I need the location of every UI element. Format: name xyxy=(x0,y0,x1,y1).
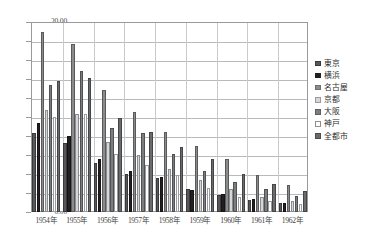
bar[interactable] xyxy=(221,194,224,212)
bar[interactable] xyxy=(145,165,148,213)
x-axis-tick-label: 1955年 xyxy=(62,214,93,225)
bar[interactable] xyxy=(279,203,282,212)
bar[interactable] xyxy=(41,32,44,212)
legend-item[interactable]: 名古屋 xyxy=(315,83,348,92)
bar[interactable] xyxy=(129,171,132,212)
bar[interactable] xyxy=(211,159,214,212)
bar[interactable] xyxy=(252,199,255,212)
bar[interactable] xyxy=(287,185,290,212)
bar[interactable] xyxy=(225,159,228,212)
legend-item[interactable]: 神戸 xyxy=(315,119,348,128)
bar-group xyxy=(62,22,93,212)
legend-item-label: 大阪 xyxy=(324,107,340,116)
bar-group xyxy=(185,22,216,212)
bars-layer xyxy=(31,22,308,212)
bar[interactable] xyxy=(207,188,210,212)
legend-item[interactable]: 横浜 xyxy=(315,71,348,80)
bar[interactable] xyxy=(71,44,74,212)
bar[interactable] xyxy=(57,81,60,212)
bar[interactable] xyxy=(303,191,306,212)
x-axis-tick-label: 1958年 xyxy=(154,214,185,225)
bar[interactable] xyxy=(80,71,83,212)
legend-swatch-icon xyxy=(315,109,321,115)
bar[interactable] xyxy=(203,171,206,212)
bar[interactable] xyxy=(168,169,171,212)
bar[interactable] xyxy=(295,196,298,212)
x-axis-tick-label: 1962年 xyxy=(277,214,308,225)
bar[interactable] xyxy=(180,147,183,212)
x-axis-tick-label: 1960年 xyxy=(216,214,247,225)
bar-group xyxy=(216,22,247,212)
bar[interactable] xyxy=(172,154,175,212)
legend-item[interactable]: 京都 xyxy=(315,95,348,104)
bar[interactable] xyxy=(75,114,78,212)
x-axis-tick-label: 1957年 xyxy=(123,214,154,225)
legend-swatch-icon xyxy=(315,97,321,103)
bar[interactable] xyxy=(114,154,117,212)
bar-group xyxy=(93,22,124,212)
bar[interactable] xyxy=(63,143,66,212)
bar[interactable] xyxy=(67,136,70,212)
x-axis-tick-label: 1956年 xyxy=(93,214,124,225)
bar[interactable] xyxy=(32,133,35,212)
bar[interactable] xyxy=(102,90,105,212)
bar[interactable] xyxy=(53,117,56,212)
bar[interactable] xyxy=(88,78,91,212)
x-axis: 1954年1955年1956年1957年1958年1959年1960年1961年… xyxy=(31,214,308,225)
bar[interactable] xyxy=(141,133,144,212)
bar[interactable] xyxy=(268,201,271,212)
legend-swatch-icon xyxy=(315,133,321,139)
bar[interactable] xyxy=(217,195,220,212)
bar[interactable] xyxy=(106,142,109,212)
bar[interactable] xyxy=(238,197,241,212)
legend-swatch-icon xyxy=(315,85,321,91)
bar[interactable] xyxy=(186,189,189,212)
bar[interactable] xyxy=(299,204,302,212)
bar[interactable] xyxy=(110,128,113,212)
bar[interactable] xyxy=(195,146,198,212)
legend-swatch-icon xyxy=(315,121,321,127)
legend-item-label: 神戸 xyxy=(324,119,340,128)
legend-swatch-icon xyxy=(315,61,321,67)
bar[interactable] xyxy=(242,174,245,212)
bar[interactable] xyxy=(98,159,101,212)
bar[interactable] xyxy=(248,200,251,212)
bar[interactable] xyxy=(133,112,136,212)
bar[interactable] xyxy=(199,180,202,212)
legend-item[interactable]: 大阪 xyxy=(315,107,348,116)
legend-item[interactable]: 東京 xyxy=(315,59,348,68)
bar-chart: 20.0018.0016.0014.0012.0010.008.006.004.… xyxy=(0,0,379,245)
bar[interactable] xyxy=(176,175,179,212)
bar[interactable] xyxy=(264,189,267,212)
bar[interactable] xyxy=(94,163,97,212)
bar[interactable] xyxy=(283,203,286,213)
legend-item-label: 名古屋 xyxy=(324,83,348,92)
bar-group xyxy=(246,22,277,212)
bar[interactable] xyxy=(118,118,121,212)
legend-item[interactable]: 全都市 xyxy=(315,132,348,141)
bar-group xyxy=(31,22,62,212)
bar-group xyxy=(154,22,185,212)
legend-item-label: 京都 xyxy=(324,95,340,104)
bar[interactable] xyxy=(137,155,140,212)
bar[interactable] xyxy=(125,174,128,212)
bar[interactable] xyxy=(272,184,275,212)
legend-swatch-icon xyxy=(315,73,321,79)
bar[interactable] xyxy=(149,132,152,212)
bar[interactable] xyxy=(160,177,163,212)
bar-group xyxy=(277,22,308,212)
bar[interactable] xyxy=(229,189,232,212)
y-axis-tick-mark xyxy=(26,212,31,213)
x-axis-tick-label: 1959年 xyxy=(185,214,216,225)
bar[interactable] xyxy=(49,85,52,212)
bar[interactable] xyxy=(233,182,236,212)
bar[interactable] xyxy=(256,175,259,212)
bar[interactable] xyxy=(190,190,193,212)
bar[interactable] xyxy=(45,110,48,212)
bar[interactable] xyxy=(156,178,159,212)
bar[interactable] xyxy=(37,123,40,212)
bar[interactable] xyxy=(291,201,294,212)
bar[interactable] xyxy=(84,114,87,212)
bar[interactable] xyxy=(260,197,263,212)
bar[interactable] xyxy=(164,132,167,212)
